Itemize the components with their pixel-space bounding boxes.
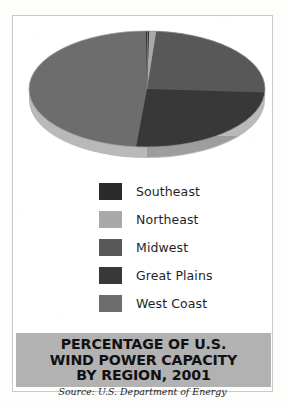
pie-chart xyxy=(13,16,272,171)
legend-item-great-plains[interactable]: Great Plains xyxy=(99,261,269,289)
figure-title-line-3: BY REGION, 2001 xyxy=(16,368,271,384)
pie-slice-midwest xyxy=(147,16,272,94)
figure-title-band: PERCENTAGE OF U.S. WIND POWER CAPACITY B… xyxy=(16,333,271,387)
figure-source-note: Source: U.S. Department of Energy xyxy=(13,386,272,397)
legend-label-southeast: Southeast xyxy=(136,184,200,199)
pie-slice-great-plains xyxy=(123,89,272,171)
legend-item-southeast[interactable]: Southeast xyxy=(99,177,269,205)
legend-item-northeast[interactable]: Northeast xyxy=(99,205,269,233)
figure-title-line-1: PERCENTAGE OF U.S. xyxy=(16,337,271,353)
legend-label-midwest: Midwest xyxy=(136,240,188,255)
legend-swatch-midwest xyxy=(99,239,122,256)
pie-chart-svg xyxy=(13,16,272,171)
legend-item-midwest[interactable]: Midwest xyxy=(99,233,269,261)
page-root: Southeast Northeast Midwest Great Plains… xyxy=(0,0,288,409)
legend-label-west-coast: West Coast xyxy=(136,296,207,311)
figure-title-line-2: WIND POWER CAPACITY xyxy=(16,353,271,369)
legend-swatch-west-coast xyxy=(99,295,122,312)
legend-swatch-southeast xyxy=(99,183,122,200)
legend-swatch-great-plains xyxy=(99,267,122,284)
legend-label-great-plains: Great Plains xyxy=(136,268,213,283)
legend-label-northeast: Northeast xyxy=(136,212,199,227)
chart-legend: Southeast Northeast Midwest Great Plains… xyxy=(99,177,269,317)
legend-swatch-northeast xyxy=(99,211,122,228)
figure-frame: Southeast Northeast Midwest Great Plains… xyxy=(12,15,273,392)
legend-item-west-coast[interactable]: West Coast xyxy=(99,289,269,317)
